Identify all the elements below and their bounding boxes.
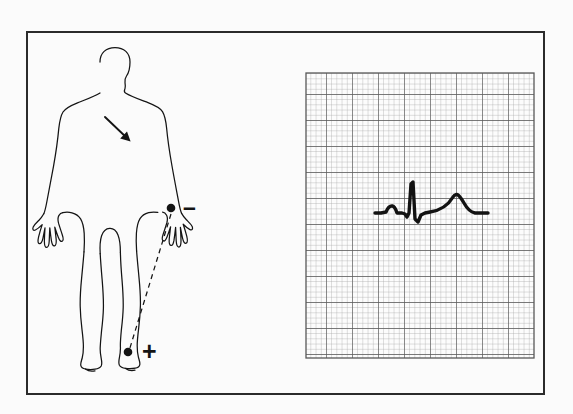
positive-electrode-dot[interactable] bbox=[124, 348, 133, 357]
positive-electrode-label: + bbox=[142, 339, 157, 364]
negative-electrode-label: – bbox=[183, 196, 196, 219]
cardiac-vector-arrow bbox=[105, 117, 131, 142]
figure-root: – + bbox=[0, 0, 573, 414]
ecg-chart-svg bbox=[300, 68, 540, 364]
ecg-graph-paper bbox=[306, 73, 540, 364]
ecg-chart-panel bbox=[300, 68, 540, 364]
lead-axis-dashed-line bbox=[129, 214, 171, 351]
negative-electrode-dot[interactable] bbox=[167, 204, 176, 213]
